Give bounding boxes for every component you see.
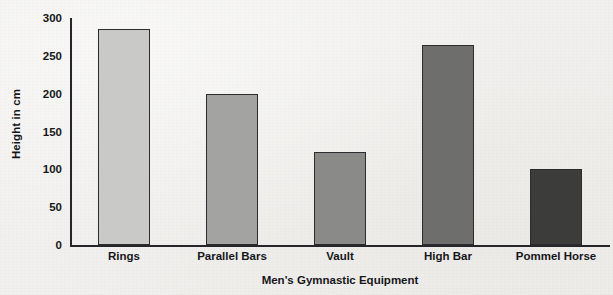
x-axis-tick-rings: Rings xyxy=(108,250,140,262)
y-axis-tick-labels: 050100150200250300 xyxy=(28,0,66,252)
y-axis-title: Height in cm xyxy=(2,0,30,248)
x-axis-tick-labels: RingsParallel BarsVaultHigh BarPommel Ho… xyxy=(70,250,610,270)
bars-layer xyxy=(70,18,610,245)
bar-high-bar xyxy=(422,45,474,245)
bar-rings xyxy=(98,29,150,245)
plot-area xyxy=(70,18,610,245)
bar-vault xyxy=(314,152,366,245)
y-axis-title-label: Height in cm xyxy=(10,89,22,159)
y-axis-tick-100: 100 xyxy=(43,163,62,175)
y-axis-tick-150: 150 xyxy=(43,126,62,138)
bar-chart: Height in cm 050100150200250300 RingsPar… xyxy=(0,0,613,295)
x-axis-tick-pommel-horse: Pommel Horse xyxy=(516,250,597,262)
y-axis-tick-250: 250 xyxy=(43,50,62,62)
bar-parallel-bars xyxy=(206,94,258,245)
y-axis-tick-200: 200 xyxy=(43,88,62,100)
x-axis-title: Men's Gymnastic Equipment xyxy=(70,274,610,286)
y-axis-tick-0: 0 xyxy=(56,239,62,251)
x-axis-tick-high-bar: High Bar xyxy=(424,250,472,262)
x-axis-tick-parallel-bars: Parallel Bars xyxy=(197,250,267,262)
bar-pommel-horse xyxy=(530,169,582,245)
y-axis-tick-50: 50 xyxy=(49,201,62,213)
y-axis-tick-300: 300 xyxy=(43,12,62,24)
x-axis-line xyxy=(70,245,610,247)
x-axis-tick-vault: Vault xyxy=(326,250,353,262)
